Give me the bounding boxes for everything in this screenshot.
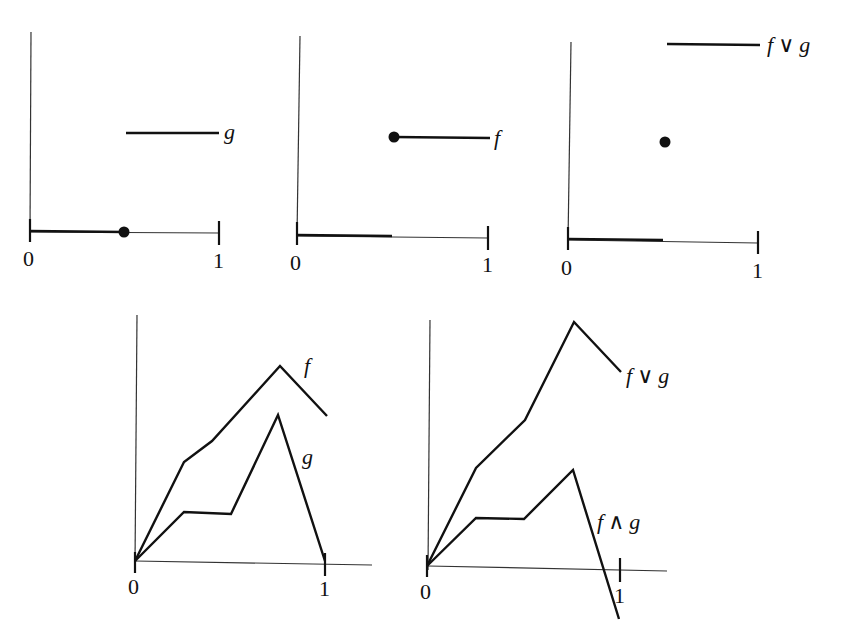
join-isolated-dot	[660, 137, 671, 148]
tick-label-zero: 0	[23, 246, 34, 271]
label-g: g	[224, 119, 235, 144]
y-axis	[297, 36, 300, 236]
x-axis	[135, 561, 372, 565]
panel-join-and-meet-piecewise: f∨g f∧g 0 1	[420, 320, 669, 619]
y-axis	[30, 32, 31, 232]
tick-label-zero: 0	[420, 579, 431, 604]
join-upper-segment	[667, 44, 760, 45]
g-filled-dot	[119, 227, 130, 238]
label-g: g	[302, 444, 313, 469]
tick-label-one: 1	[213, 248, 224, 273]
lattice-operations-figure: g 0 1 f 0 1 f∨g 0 1 f g 0	[0, 0, 846, 637]
join-lower-segment	[568, 239, 663, 240]
tick-label-one: 1	[752, 258, 763, 283]
y-axis	[135, 315, 137, 565]
label-f: f	[304, 353, 313, 378]
label-f-join-g: f∨g	[767, 32, 810, 57]
y-axis	[568, 42, 571, 242]
tick-label-one: 1	[614, 583, 625, 608]
label-f: f	[494, 125, 503, 150]
y-axis	[428, 320, 430, 570]
f-lower-segment	[297, 235, 392, 236]
f-upper-segment	[394, 137, 490, 138]
tick-label-zero: 0	[561, 255, 572, 280]
g-lower-segment	[30, 231, 124, 232]
x-axis	[428, 566, 667, 571]
tick-label-zero: 0	[290, 250, 301, 275]
tick-label-one: 1	[319, 576, 330, 601]
panel-f-and-g-piecewise: f g 0 1	[128, 315, 372, 601]
f-meet-g-polyline	[427, 470, 619, 619]
panel-f-join-g-step: f∨g 0 1	[561, 32, 810, 283]
g-polyline	[135, 415, 325, 561]
panel-g-step: g 0 1	[23, 32, 235, 273]
label-f-join-g: f∨g	[626, 363, 669, 388]
panel-f-step: f 0 1	[290, 36, 503, 277]
tick-label-one: 1	[482, 252, 493, 277]
label-f-meet-g: f∧g	[597, 509, 640, 534]
tick-label-zero: 0	[128, 574, 139, 599]
